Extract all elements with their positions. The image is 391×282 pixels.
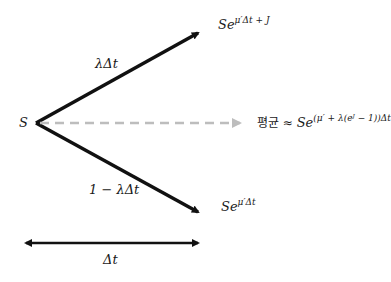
start-node-label: S xyxy=(19,116,28,129)
down-branch-arrow xyxy=(36,123,198,212)
up-probability-label: λΔt xyxy=(95,57,118,70)
mean-base: Se xyxy=(297,115,314,130)
down-node-label: Seμ′Δt xyxy=(221,200,256,213)
mean-prefix: 평균 ≈ xyxy=(257,116,297,130)
mean-exponent: (μ′ + λ(eᴶ − 1))Δt xyxy=(313,113,391,123)
up-node-base: Se xyxy=(218,17,235,32)
mean-label: 평균 ≈ Se(μ′ + λ(eᴶ − 1))Δt xyxy=(257,116,391,129)
up-node-label: Seμ′Δt + J xyxy=(218,18,270,31)
up-branch-arrow xyxy=(36,33,198,123)
down-node-base: Se xyxy=(221,199,238,214)
up-node-exponent: μ′Δt + J xyxy=(235,15,270,25)
time-span-label: Δt xyxy=(103,253,118,266)
down-node-exponent: μ′Δt xyxy=(238,197,256,207)
down-probability-label: 1 − λΔt xyxy=(89,183,139,196)
